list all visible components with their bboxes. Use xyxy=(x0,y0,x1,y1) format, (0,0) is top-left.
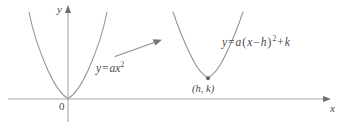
parabola-translation-figure: y x 0 y=ax2 y=a(x−h)2+k (h, k) xyxy=(0,0,346,124)
equation-label-translated: y=a(x−h)2+k xyxy=(222,37,290,49)
y-axis-arrowhead xyxy=(65,5,71,13)
equation-translated-plus: + xyxy=(276,36,285,48)
equation-basic-exponent: 2 xyxy=(120,60,124,69)
equation-translated-minus: − xyxy=(252,36,261,48)
figure-canvas xyxy=(0,0,346,124)
y-axis-label: y xyxy=(57,4,62,15)
equation-translated-k: k xyxy=(285,36,290,48)
translation-arrow-shaft xyxy=(115,42,157,57)
equation-label-basic: y=ax2 xyxy=(96,63,124,75)
equation-translated-equals: = xyxy=(227,36,236,48)
equation-translated-h: h xyxy=(261,36,267,48)
origin-label: 0 xyxy=(59,101,65,112)
vertex-label: (h, k) xyxy=(192,84,214,95)
equation-basic-equals: = xyxy=(101,62,110,74)
translation-arrow xyxy=(115,39,162,56)
left-axes xyxy=(8,5,331,122)
x-axis-label: x xyxy=(330,103,335,114)
vertex-point-marker xyxy=(206,76,210,80)
